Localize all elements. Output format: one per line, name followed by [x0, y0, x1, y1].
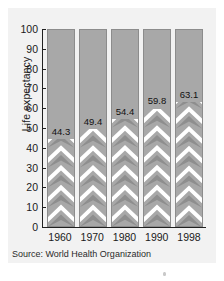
- scan-artifact: [163, 272, 166, 276]
- source-note: Source: World Health Organization: [12, 249, 151, 259]
- bar-1990: 59.8: [143, 29, 171, 227]
- bar-group: 44.349.454.459.863.1: [43, 29, 206, 227]
- x-tick-label: 1980: [111, 231, 139, 243]
- x-tick-label: 1998: [175, 231, 203, 243]
- bar-1998: 63.1: [175, 29, 203, 227]
- x-axis-line: [42, 227, 206, 228]
- plot-area: 0102030405060708090100 44.349.454.459.86…: [42, 29, 206, 228]
- bar-1970: 49.4: [79, 29, 107, 227]
- bar-chevron-fill: [175, 102, 203, 227]
- x-tick-label: 1970: [78, 231, 106, 243]
- x-axis-ticks: 19601970198019901998: [42, 231, 206, 243]
- y-tick-label: 100: [20, 24, 38, 35]
- bar-chevron-fill: [47, 139, 75, 227]
- y-tick-label: 80: [26, 63, 38, 74]
- x-tick-label: 1960: [46, 231, 74, 243]
- bar-value-label: 49.4: [84, 117, 103, 127]
- bar-1960: 44.3: [47, 29, 75, 227]
- bar-chevron-fill: [111, 119, 139, 227]
- bar-value-label: 44.3: [52, 127, 71, 137]
- y-tick-label: 10: [26, 202, 38, 213]
- y-tick-label: 30: [26, 162, 38, 173]
- y-tick-label: 0: [32, 222, 38, 233]
- y-tick-label: 50: [26, 123, 38, 134]
- y-tick-label: 20: [26, 182, 38, 193]
- y-tick-label: 70: [26, 83, 38, 94]
- bar-chevron-fill: [79, 129, 107, 227]
- bar-chevron-fill: [143, 109, 171, 227]
- y-tick-label: 90: [26, 44, 38, 55]
- bar-value-label: 59.8: [148, 96, 167, 106]
- y-tick-label: 40: [26, 143, 38, 154]
- bar-value-label: 54.4: [116, 107, 135, 117]
- y-tick-mark: [42, 227, 46, 228]
- life-expectancy-bar-chart: Life expectancy 0102030405060708090100 4…: [0, 0, 224, 281]
- x-tick-label: 1990: [143, 231, 171, 243]
- bar-1980: 54.4: [111, 29, 139, 227]
- y-tick-label: 60: [26, 103, 38, 114]
- bar-value-label: 63.1: [180, 90, 199, 100]
